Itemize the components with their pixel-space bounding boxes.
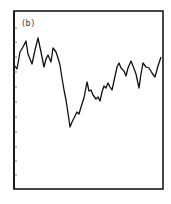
line-chart: (b) (0, 0, 171, 204)
data-series-line (15, 38, 161, 127)
panel-label: (b) (22, 19, 35, 28)
chart-frame (14, 11, 163, 189)
